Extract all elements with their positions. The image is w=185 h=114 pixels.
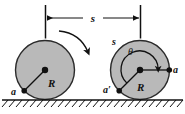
right-wheel-contact-dot <box>116 88 122 94</box>
left-wheel-center-dot <box>42 67 48 73</box>
dimension-label-s: s <box>90 12 95 24</box>
ground-hatching <box>2 100 183 107</box>
left-wheel-radius-label: R <box>47 77 55 89</box>
theta-angle-label: θ <box>128 46 133 57</box>
figure-canvas: s R a s θ R <box>0 0 185 114</box>
left-wheel-contact-dot <box>21 88 27 94</box>
left-wheel-group: R a <box>11 41 75 100</box>
dimension-group: s <box>46 5 141 39</box>
rolling-wheel-figure: s R a s θ R <box>0 0 185 114</box>
hatched-ground-line <box>2 100 183 107</box>
right-wheel-radius-label: R <box>136 81 144 93</box>
right-wheel-center-dot <box>137 67 143 73</box>
right-wheel-rim-dot <box>167 67 173 73</box>
right-wheel-arc-label-s: s <box>111 36 116 47</box>
right-wheel-rim-label: a <box>173 64 178 75</box>
left-wheel-contact-label: a <box>11 86 16 97</box>
right-wheel-group: s θ R a′ a <box>103 36 178 100</box>
right-wheel-contact-label: a′ <box>103 84 111 95</box>
